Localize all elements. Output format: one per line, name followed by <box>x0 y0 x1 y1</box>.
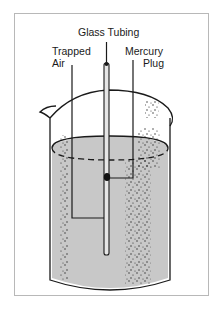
label-mercury-plug-1: Mercury <box>125 45 164 57</box>
label-mercury-plug-2: Plug <box>143 57 164 69</box>
label-glass-tubing: Glass Tubing <box>78 26 139 38</box>
glass-tubing <box>104 42 109 255</box>
beaker-diagram: Glass Tubing Trapped Air Mercury Plug <box>0 0 218 313</box>
label-trapped-air-1: Trapped <box>52 45 91 57</box>
label-trapped-air-2: Air <box>52 57 65 69</box>
mercury-plug <box>104 173 110 181</box>
beaker-spout <box>40 106 56 118</box>
